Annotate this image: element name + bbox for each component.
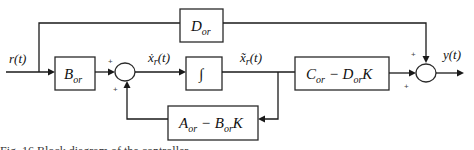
arrowhead-icon: [258, 116, 265, 123]
arrowhead-icon: [108, 69, 115, 76]
summing-junction-1: + +: [108, 57, 135, 94]
arrowhead-icon: [457, 70, 464, 77]
feedback-branch-line: [265, 72, 278, 119]
sum2-sign-top: +: [411, 50, 416, 59]
state-label: x̃r(t): [239, 50, 262, 67]
sum2-sign-bottom: +: [404, 82, 409, 91]
arrowhead-icon: [409, 70, 416, 77]
c-block: Cor − DorK: [295, 57, 389, 90]
block-diagram: r(t) Dor Bor + + ẋr(t) ∫ x̃r(t) Aor − Bo…: [0, 0, 474, 150]
output-signal-label: y(t): [441, 47, 461, 62]
figure-caption: Fig. 16 Block diagram of the controller: [0, 144, 188, 150]
b-block-main: B: [64, 66, 73, 82]
d-block-sub: or: [202, 26, 211, 37]
arrowhead-icon: [48, 69, 55, 76]
arrowhead-icon: [423, 56, 430, 63]
feedback-line: [127, 87, 168, 119]
integrator-block: ∫: [186, 57, 222, 90]
arrowhead-icon: [124, 81, 131, 88]
d-block: Dor: [180, 9, 223, 42]
b-block-sub: or: [73, 74, 82, 85]
sum1-sign-bottom: +: [113, 85, 118, 94]
b-block: Bor: [55, 57, 95, 90]
d-block-main: D: [190, 18, 202, 34]
summing-junction-2: + +: [404, 50, 436, 91]
state-derivative-label: ẋr(t): [147, 50, 170, 67]
a-block: Aor − BorK: [168, 106, 258, 140]
arrowhead-icon: [179, 69, 186, 76]
input-signal-label: r(t): [9, 51, 26, 66]
sum1-sign-top: +: [108, 57, 113, 66]
